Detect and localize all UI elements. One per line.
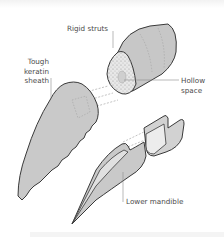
label-hollow-space-line2: space — [181, 86, 205, 96]
label-keratin-sheath-line1: Tough — [20, 57, 49, 67]
label-lower-mandible: Lower mandible — [126, 197, 183, 207]
bill-diagram — [0, 0, 224, 237]
keratin-sheath — [18, 82, 98, 200]
label-rigid-struts: Rigid struts — [67, 24, 108, 34]
lower-mandible — [72, 115, 184, 224]
label-hollow-space: Hollow space — [181, 76, 205, 95]
label-keratin-sheath-line2: keratin — [20, 67, 49, 77]
label-hollow-space-line1: Hollow — [181, 76, 205, 86]
label-keratin-sheath-line3: sheath — [20, 76, 49, 86]
rigid-struts-segment — [107, 24, 176, 94]
label-keratin-sheath: Tough keratin sheath — [20, 57, 49, 86]
